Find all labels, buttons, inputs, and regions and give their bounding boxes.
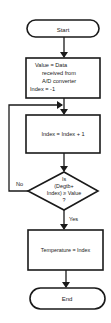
start-terminal: Start <box>27 20 99 37</box>
decision-line-2: (Degtb+ <box>54 183 73 189</box>
end-terminal: End <box>30 288 105 309</box>
increment-label: Index = Index + 1 <box>41 131 84 137</box>
assign-process-box: Temperature = Index <box>28 230 103 270</box>
decision-line-4: ? <box>63 197 66 203</box>
start-label: Start <box>57 27 70 33</box>
decision-diamond: Is (Degtb+ Index) ≥ Value ? <box>28 172 98 210</box>
increment-process-box: Index = Index + 1 <box>26 115 100 153</box>
no-label: No <box>16 181 23 187</box>
decision-line-1: Is <box>62 176 66 182</box>
flowchart: Start Value = Data received from A/D con… <box>0 0 111 323</box>
init-line-1: Value = Data <box>35 62 68 68</box>
end-label: End <box>62 296 73 302</box>
decision-line-3: Index) ≥ Value <box>47 190 81 196</box>
init-line-2: received from <box>42 70 76 76</box>
yes-label: Yes <box>69 216 78 222</box>
init-line-4: Index = -1 <box>30 86 55 92</box>
init-line-3: A/D converter <box>42 78 76 84</box>
init-process-box: Value = Data received from A/D converter… <box>26 58 100 98</box>
assign-label: Temperature = Index <box>41 247 91 253</box>
